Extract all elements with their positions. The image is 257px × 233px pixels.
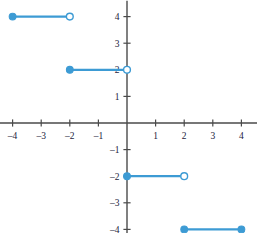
y-axis-tick-label: 4 <box>115 12 120 22</box>
y-axis-tick-label: –1 <box>109 145 120 155</box>
closed-endpoint-marker <box>124 173 131 180</box>
y-axis-tick-label: –4 <box>109 225 120 233</box>
x-axis-tick-label: 3 <box>210 131 215 141</box>
y-axis-tick-label: –2 <box>109 172 120 182</box>
step-function-plot: –4–3–2–11234–4–3–2–11234xy <box>0 0 257 233</box>
open-endpoint-marker <box>181 173 188 180</box>
y-axis-tick-label: 1 <box>115 92 120 102</box>
x-axis-tick-label: 2 <box>182 131 187 141</box>
x-axis-tick-label: 4 <box>239 131 244 141</box>
closed-endpoint-marker <box>181 226 188 233</box>
plot-canvas: –4–3–2–11234–4–3–2–11234xy <box>0 0 257 233</box>
closed-endpoint-marker <box>238 226 245 233</box>
x-axis-tick-label: –4 <box>7 131 18 141</box>
x-axis-tick-label: –3 <box>35 131 46 141</box>
y-axis-tick-label: 3 <box>115 39 120 49</box>
x-axis-tick-label: –1 <box>93 131 104 141</box>
closed-endpoint-marker <box>66 66 73 73</box>
open-endpoint-marker <box>66 13 73 20</box>
open-endpoint-marker <box>124 66 131 73</box>
y-axis-tick-label: –3 <box>109 198 120 208</box>
closed-endpoint-marker <box>9 13 16 20</box>
x-axis-tick-label: –2 <box>64 131 75 141</box>
x-axis-tick-label: 1 <box>153 131 158 141</box>
